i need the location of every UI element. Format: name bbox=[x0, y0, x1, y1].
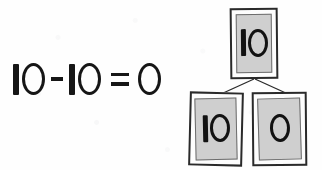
minus-sign-icon bbox=[51, 77, 63, 81]
equals-sign-icon bbox=[111, 73, 129, 86]
worksheet-canvas: 10 - 10 = 0 10 10 bbox=[0, 0, 322, 170]
digit-one-glyph bbox=[240, 29, 245, 56]
digit-one-glyph bbox=[69, 64, 75, 95]
bond-whole-card[interactable]: 10 bbox=[230, 8, 279, 79]
bond-part-right-value bbox=[269, 114, 290, 143]
digit-zero-glyph bbox=[269, 114, 290, 143]
bond-whole-card-face: 10 bbox=[236, 14, 273, 73]
bond-part-left-value bbox=[202, 114, 230, 143]
equation-right-operand bbox=[69, 63, 101, 95]
digit-zero-glyph bbox=[78, 63, 101, 95]
equation-result bbox=[138, 63, 161, 95]
bond-part-right-card-face: 0 bbox=[257, 97, 302, 160]
bond-part-card-right[interactable]: 0 bbox=[252, 92, 308, 166]
digit-zero-glyph bbox=[209, 114, 230, 142]
digit-zero-glyph bbox=[22, 63, 45, 95]
digit-zero-glyph bbox=[138, 63, 161, 95]
equation: 10 - 10 = 0 bbox=[13, 53, 178, 105]
digit-one-glyph bbox=[202, 115, 208, 142]
equation-left-operand bbox=[13, 63, 45, 95]
bond-part-left-card-face: 10 bbox=[194, 98, 237, 161]
digit-zero-glyph bbox=[247, 28, 267, 56]
bond-whole-value bbox=[240, 28, 267, 56]
digit-one-glyph bbox=[13, 64, 19, 95]
bond-part-card-left[interactable]: 10 bbox=[188, 91, 244, 166]
number-bond: 10 10 0 bbox=[185, 4, 322, 168]
